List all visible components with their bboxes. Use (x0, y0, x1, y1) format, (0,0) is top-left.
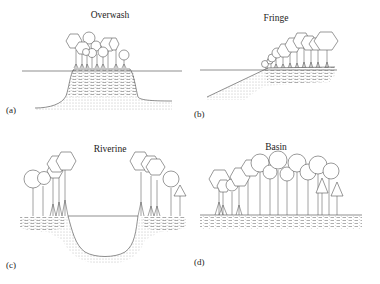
panel-title: Basin (265, 142, 287, 152)
panel-title: Riverine (94, 144, 127, 154)
panel-title: Overwash (91, 10, 130, 20)
peat-layer (200, 215, 362, 229)
panel-label: (c) (6, 260, 16, 270)
tree-stand-right (130, 152, 186, 216)
tree-stand-left (24, 152, 76, 216)
peat-layer (265, 67, 335, 84)
panel-basin: Basin (194, 142, 362, 267)
panel-overwash: Overwash (a (6, 10, 182, 115)
tree-stand (209, 151, 343, 215)
panel-label: (d) (194, 257, 205, 267)
triangle-crown (331, 182, 343, 196)
triangle-crown (174, 185, 186, 196)
tree-stand (66, 32, 129, 68)
panel-label: (b) (194, 109, 205, 119)
panel-label: (a) (6, 105, 16, 115)
tree-stand (262, 32, 339, 68)
panel-title: Fringe (264, 13, 289, 23)
peat-layer (68, 70, 137, 97)
mangrove-types-figure: Overwash (a (0, 0, 380, 284)
panel-riverine: Riverine (6, 144, 186, 270)
panel-fringe: Fringe (b) (194, 13, 338, 119)
